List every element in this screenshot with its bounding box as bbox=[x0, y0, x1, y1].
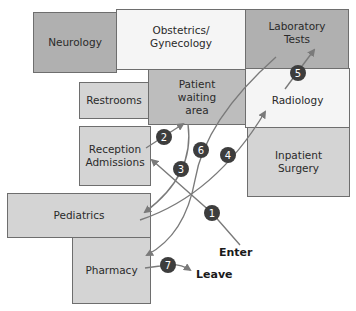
path-step-6 bbox=[147, 57, 276, 255]
step-marker-2: 2 bbox=[156, 129, 172, 145]
patient-flow-paths: 1 2 3 4 5 6 7 bbox=[0, 0, 356, 311]
svg-text:2: 2 bbox=[161, 132, 167, 143]
step-marker-4: 4 bbox=[220, 147, 236, 163]
step-marker-6: 6 bbox=[193, 142, 209, 158]
svg-text:1: 1 bbox=[209, 208, 215, 219]
step-marker-5: 5 bbox=[290, 65, 306, 81]
leave-label: Leave bbox=[196, 268, 233, 281]
step-marker-7: 7 bbox=[160, 257, 176, 273]
svg-text:7: 7 bbox=[165, 260, 171, 271]
enter-label: Enter bbox=[219, 246, 253, 259]
svg-text:4: 4 bbox=[225, 150, 231, 161]
step-marker-1: 1 bbox=[204, 205, 220, 221]
step-marker-3: 3 bbox=[173, 161, 189, 177]
svg-text:5: 5 bbox=[295, 68, 301, 79]
step-markers: 1 2 3 4 5 6 7 bbox=[156, 65, 306, 273]
svg-text:3: 3 bbox=[178, 164, 184, 175]
svg-text:6: 6 bbox=[198, 145, 204, 156]
